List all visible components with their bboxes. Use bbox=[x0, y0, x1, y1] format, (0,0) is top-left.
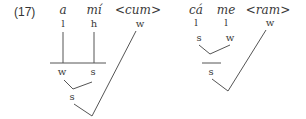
left-word-1: a bbox=[59, 4, 66, 16]
left-tone-1: l bbox=[61, 19, 64, 29]
right-word-2: me bbox=[217, 4, 235, 16]
right-branch-sw bbox=[199, 45, 230, 54]
right-word-1: cá bbox=[189, 4, 203, 16]
left-branch-ws bbox=[64, 80, 92, 89]
left-branch-root bbox=[74, 31, 136, 116]
left-word-3: <cum> bbox=[115, 4, 161, 16]
left-node-root-s: s bbox=[69, 92, 74, 102]
prosodic-tree-diagram: (17) a mí <cum> l h w w s s cá me <ram> … bbox=[0, 0, 306, 119]
right-tone-3: w bbox=[266, 18, 275, 28]
left-word-2: mí bbox=[86, 4, 101, 16]
right-tone-2: l bbox=[224, 18, 227, 28]
right-node-w: w bbox=[226, 33, 235, 43]
left-tone-2: h bbox=[91, 19, 97, 29]
left-tone-3: w bbox=[136, 19, 145, 29]
right-node-root-s: s bbox=[208, 67, 213, 77]
right-word-3: <ram> bbox=[246, 4, 290, 16]
right-tone-1: l bbox=[194, 18, 197, 28]
right-branch-root bbox=[212, 30, 266, 91]
tree-lines bbox=[0, 0, 306, 119]
right-node-s: s bbox=[196, 33, 201, 43]
left-node-s: s bbox=[90, 67, 95, 77]
left-node-w: w bbox=[58, 67, 67, 77]
